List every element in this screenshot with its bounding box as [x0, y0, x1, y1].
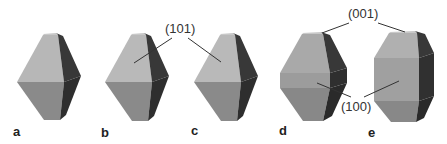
crystal-b-upper-front-face [105, 35, 152, 82]
crystal-b-lower-front-face [105, 82, 152, 121]
crystal-d-upper-front-face [280, 34, 330, 73]
crystal-e-lower-front-face [374, 101, 419, 122]
panel-label-d: d [279, 123, 287, 138]
crystal-d [280, 32, 347, 121]
crystal-e-prism-band-side [419, 53, 434, 101]
crystal-a [17, 33, 81, 120]
crystal-c-upper-front-face [194, 35, 241, 82]
panel-label-e: e [368, 125, 375, 140]
leader-001-to-e [378, 23, 405, 32]
crystal-e-prism-band-front [374, 58, 419, 101]
crystal-a-upper-front-face [17, 35, 64, 82]
crystal-morphology-figure: (101) (001) (100) a b c d e [0, 0, 447, 144]
annotation-101: (101) [165, 21, 195, 36]
annotation-100: (100) [341, 99, 371, 114]
leader-001-to-d [322, 23, 349, 33]
crystal-d-lower-front-face [280, 88, 330, 121]
panel-label-a: a [13, 124, 21, 139]
crystal-c [194, 33, 258, 121]
crystal-c-lower-front-face [194, 82, 241, 121]
panel-label-b: b [101, 125, 109, 140]
crystal-e-upper-front-face [374, 33, 419, 58]
crystal-e [374, 31, 434, 122]
panel-label-c: c [191, 123, 198, 138]
annotation-001: (001) [348, 6, 378, 21]
crystal-a-lower-front-face [17, 82, 64, 120]
